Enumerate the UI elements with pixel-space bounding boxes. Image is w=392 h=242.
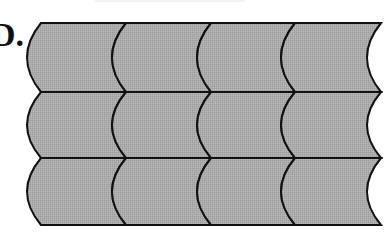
tile-r1-c4 — [281, 23, 381, 92]
tessellation-diagram — [0, 0, 392, 242]
tile-grid — [27, 23, 381, 225]
tile-r3-c4 — [281, 158, 381, 225]
tile-r2-c4 — [281, 92, 381, 158]
